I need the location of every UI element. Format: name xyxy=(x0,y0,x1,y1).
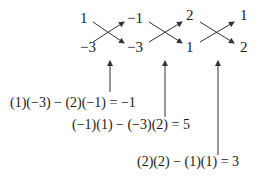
col3-bottom: 1 xyxy=(186,40,194,55)
equation-3: (2)(2) − (1)(1) = 3 xyxy=(137,155,239,169)
col3-top: 2 xyxy=(186,8,194,23)
equation-2: (−1)(1) − (−3)(2) = 5 xyxy=(72,118,190,132)
col1-bottom: −3 xyxy=(80,40,96,55)
col4-bottom: 2 xyxy=(240,40,248,55)
equation-1: (1)(−3) − (2)(−1) = −1 xyxy=(10,96,136,110)
col2-top: −1 xyxy=(127,11,143,26)
cross-multiplication-arrows xyxy=(0,0,258,178)
col1-top: 1 xyxy=(80,11,88,26)
col4-top: 1 xyxy=(240,8,248,23)
col2-bottom: −3 xyxy=(127,40,143,55)
